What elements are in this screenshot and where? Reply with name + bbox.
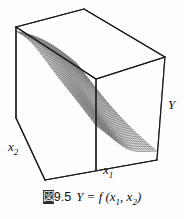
figure-caption-expression: Y = f (x1, x2) xyxy=(76,189,141,204)
axis-label-y-text: Y xyxy=(168,97,175,112)
axis-label-x1: x1 xyxy=(103,163,113,180)
figure-caption: 図9.5Y = f (x1, x2) xyxy=(0,190,184,207)
figure-caption-number: 9.5 xyxy=(54,190,71,204)
surface-plot-3d xyxy=(0,0,184,185)
figure-caption-kanji: 図 xyxy=(43,190,54,204)
axis-label-y: Y xyxy=(168,98,175,111)
top-frame-mask xyxy=(0,0,184,8)
axis-label-x2: x2 xyxy=(8,140,18,157)
plot-background xyxy=(0,0,184,185)
caption-expr-mid: , x xyxy=(120,189,132,204)
axis-label-x2-sub: 2 xyxy=(14,147,19,157)
figure-container: x2 x1 Y 図9.5Y = f (x1, x2) xyxy=(0,0,184,219)
axis-label-x1-sub: 1 xyxy=(109,170,114,180)
caption-expr-end: ) xyxy=(137,189,141,204)
plot-svg xyxy=(0,0,184,185)
caption-expr-main: Y = f (x xyxy=(76,189,115,204)
